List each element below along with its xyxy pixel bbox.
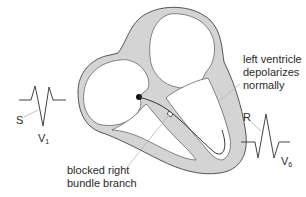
ecg-v1-lead-label: V1 — [38, 132, 49, 144]
ecg-v6-r-wave-label: R — [243, 111, 251, 123]
ecg-v1 — [19, 86, 66, 126]
ecg-v1-s-wave-label: S — [16, 114, 23, 126]
blocked-branch-line2: bundle branch — [67, 177, 137, 190]
left-ventricle-line1: left ventricle — [243, 53, 302, 66]
ecg-v6-lead-label: V6 — [281, 155, 292, 167]
ecg-v1-s-leader — [24, 110, 38, 117]
rbbb-heart-diagram — [0, 0, 306, 197]
heart — [78, 7, 246, 173]
ecg-v1-trace — [19, 86, 66, 126]
left-ventricle-line2: depolarizes — [243, 66, 302, 79]
left-ventricle-line3: normally — [243, 79, 302, 92]
ecg-v6-lead-sub: 6 — [288, 161, 292, 168]
blocked-branch-annotation: blocked right bundle branch — [67, 164, 137, 190]
left-ventricle-annotation: left ventricle depolarizes normally — [243, 53, 302, 92]
blocked-branch-line1: blocked right — [67, 164, 137, 177]
ecg-v1-lead-sub: 1 — [45, 138, 49, 145]
